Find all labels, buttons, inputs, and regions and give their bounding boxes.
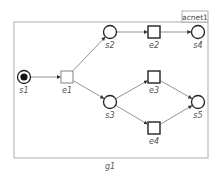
event-label: e2 <box>149 41 159 50</box>
petri-net-diagram: acnet1 s1s2s3s4s5e1e2e3e4 g1 <box>0 0 218 177</box>
arc-e3-s5 <box>161 81 192 99</box>
event-e2[interactable]: e2 <box>148 26 160 50</box>
event-e1[interactable]: e1 <box>61 71 73 95</box>
arc-s3-e3 <box>116 81 147 99</box>
event-e4[interactable]: e4 <box>148 122 160 146</box>
place-label: s5 <box>193 111 202 120</box>
arc-s3-e4 <box>116 106 147 125</box>
event-label: e4 <box>149 137 159 146</box>
event-label: e3 <box>149 86 159 95</box>
place-s5[interactable]: s5 <box>192 96 205 120</box>
place-s1[interactable]: s1 <box>18 71 31 95</box>
place-label: s3 <box>105 111 114 120</box>
event-e3[interactable]: e3 <box>148 71 160 95</box>
arc-e1-s2 <box>73 37 105 70</box>
net-name-label: acnet1 <box>182 13 208 22</box>
arc-e1-s3 <box>74 81 104 99</box>
place-label: s2 <box>105 41 114 50</box>
place-label: s4 <box>193 41 202 50</box>
arc-e4-s5 <box>161 106 192 125</box>
place-s2[interactable]: s2 <box>104 26 117 50</box>
group-label: g1 <box>105 162 115 171</box>
event-label: e1 <box>62 86 72 95</box>
place-s4[interactable]: s4 <box>192 26 205 50</box>
nodes-layer: s1s2s3s4s5e1e2e3e4 <box>18 26 205 146</box>
place-s3[interactable]: s3 <box>104 96 117 120</box>
place-label: s1 <box>19 86 28 95</box>
